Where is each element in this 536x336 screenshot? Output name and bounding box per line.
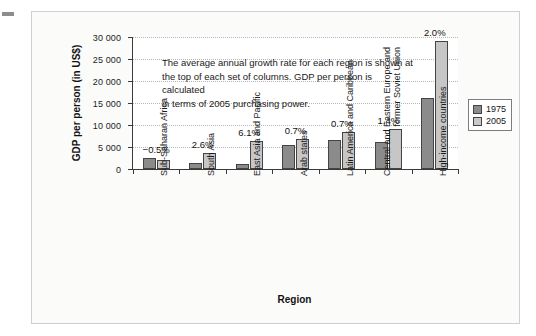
category-label-line-1: Latin America and Caribbean — [345, 60, 355, 176]
category-label-line-1: South Asia — [206, 133, 216, 176]
x-axis-title: Region — [132, 294, 457, 305]
legend-swatch-2005 — [473, 117, 482, 126]
bar-1975[interactable] — [236, 164, 249, 169]
category-label-line-1: East Asia and Pacific — [252, 92, 262, 176]
bar-1975[interactable] — [328, 140, 341, 169]
x-axis-category-label: Latin America and Caribbean — [345, 60, 355, 176]
legend-label-1975: 1975 — [486, 104, 506, 114]
bar-1975[interactable] — [189, 163, 202, 169]
x-axis-category-label: Arab states — [299, 130, 309, 176]
legend-item-2005: 2005 — [473, 115, 506, 127]
x-axis-tick — [179, 169, 180, 174]
chart-page: GDP per person (in US$) 30 00025 00020 0… — [0, 0, 536, 336]
y-axis-tick-label: 5 000 — [98, 143, 121, 153]
annotation-note: The average annual growth rate for each … — [162, 56, 417, 110]
annotation-line-1: The average annual growth rate for each … — [162, 56, 417, 70]
category-label-line-1: Central and Eastern Europe and — [382, 47, 392, 176]
category-label-line-1: Arab states — [299, 130, 309, 176]
x-axis-tick — [226, 169, 227, 174]
legend-label-2005: 2005 — [486, 116, 506, 126]
category-label-line-1: High-income countries — [438, 86, 448, 176]
corner-mark — [2, 12, 14, 16]
x-axis-tick — [365, 169, 366, 174]
y-axis-tick-label: 30 000 — [93, 33, 121, 43]
bar-1975[interactable] — [421, 98, 434, 169]
annotation-line-3: in terms of 2005 purchasing power. — [162, 97, 417, 111]
x-axis-category-label: High-income countries — [438, 86, 448, 176]
y-axis-title: GDP per person (in US$) — [70, 37, 84, 169]
x-axis-tick — [458, 169, 459, 174]
bar-1975[interactable] — [143, 158, 156, 169]
x-axis-category-label: Sub-Saharan Africa — [159, 98, 169, 176]
legend-item-1975: 1975 — [473, 103, 506, 115]
x-axis-tick — [133, 169, 134, 174]
annotation-line-2: the top of each set of columns. GDP per … — [162, 70, 417, 97]
x-axis-category-label: East Asia and Pacific — [252, 92, 262, 176]
category-label-line-1: Sub-Saharan Africa — [159, 98, 169, 176]
y-axis-tick-label: 15 000 — [93, 99, 121, 109]
bar-pair — [412, 37, 458, 169]
growth-rate-label: 2.0% — [424, 27, 446, 38]
bar-1975[interactable] — [282, 145, 295, 169]
y-axis-tick-label: 20 000 — [93, 77, 121, 87]
legend: 1975 2005 — [468, 99, 512, 131]
legend-swatch-1975 — [473, 105, 482, 114]
x-axis-tick — [272, 169, 273, 174]
x-axis-category-label: South Asia — [206, 133, 216, 176]
bar-group: 2.0% — [412, 37, 458, 169]
x-axis-tick — [319, 169, 320, 174]
x-axis-category-label: Central and Eastern Europe andformer Sov… — [382, 47, 402, 176]
y-axis-tick-label: 25 000 — [93, 55, 121, 65]
x-axis-tick — [412, 169, 413, 174]
category-label-line-2: former Soviet Union — [392, 47, 402, 176]
figure-frame: GDP per person (in US$) 30 00025 00020 0… — [31, 11, 520, 324]
y-axis-tick-label: 10 000 — [93, 121, 121, 131]
y-axis-tick-label: 0 — [116, 165, 121, 175]
